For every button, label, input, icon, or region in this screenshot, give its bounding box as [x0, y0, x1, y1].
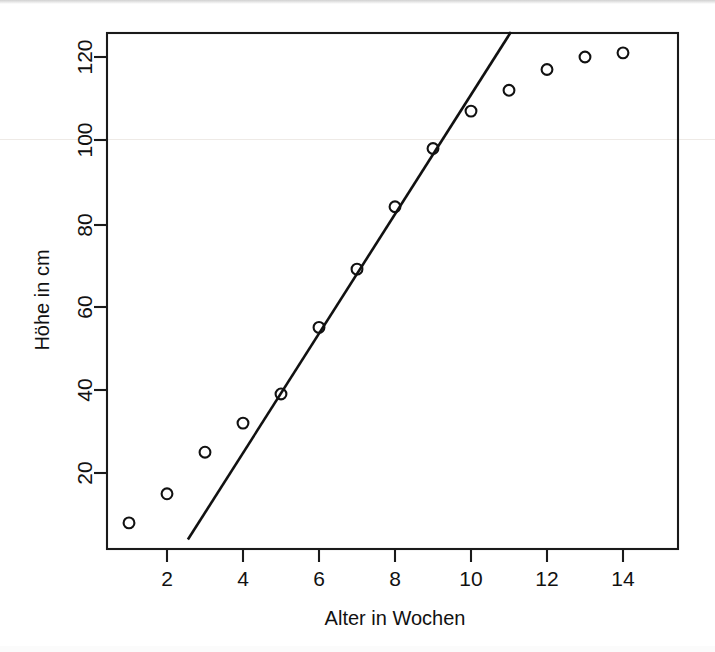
y-axis: 20 40 60 80 100 120 Höhe in cm: [31, 39, 107, 484]
data-point: [618, 47, 629, 58]
x-axis-title: Alter in Wochen: [325, 607, 466, 629]
y-axis-title: Höhe in cm: [31, 249, 53, 350]
y-tick-label-60: 60: [73, 295, 96, 318]
x-tick-label-10: 10: [459, 567, 482, 590]
x-tick-labels: 2 4 6 8 10 12 14: [161, 567, 635, 590]
data-point: [238, 418, 249, 429]
y-tick-label-80: 80: [73, 213, 96, 236]
y-tick-label-20: 20: [73, 461, 96, 484]
data-point: [580, 52, 591, 63]
data-point: [200, 447, 211, 458]
chart-figure: 20 40 60 80 100 120 Höhe in cm 2: [0, 0, 715, 652]
data-point-layer: [124, 47, 629, 528]
fitted-regression-line: [188, 32, 511, 540]
x-tick-label-12: 12: [535, 567, 558, 590]
y-tick-label-120: 120: [73, 39, 96, 74]
scatter-plot: 20 40 60 80 100 120 Höhe in cm 2: [0, 0, 715, 652]
fit-line-segment: [188, 32, 511, 540]
x-tick-label-2: 2: [161, 567, 173, 590]
data-point: [504, 85, 515, 96]
data-point: [466, 106, 477, 117]
y-tick-labels: 20 40 60 80 100 120: [73, 39, 96, 484]
x-tick-label-8: 8: [389, 567, 401, 590]
x-tick-group: [167, 549, 623, 562]
data-point: [162, 488, 173, 499]
x-tick-label-14: 14: [611, 567, 635, 590]
plot-frame: [107, 33, 678, 549]
data-point: [124, 518, 135, 529]
y-tick-label-40: 40: [73, 378, 96, 401]
x-tick-label-6: 6: [313, 567, 325, 590]
x-tick-label-4: 4: [237, 567, 249, 590]
y-tick-group: [94, 57, 107, 473]
data-point: [542, 64, 553, 75]
y-tick-label-100: 100: [73, 122, 96, 157]
x-axis: 2 4 6 8 10 12 14 Alter in Wochen: [161, 549, 635, 629]
